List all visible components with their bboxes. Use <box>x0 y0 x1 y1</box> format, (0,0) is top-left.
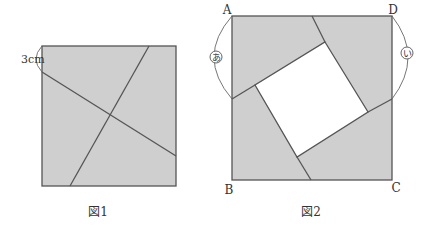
figure-2-caption: 図2 <box>301 205 321 219</box>
figure-1-caption: 図1 <box>88 205 108 219</box>
figure-1-measure-label: 3cm <box>21 53 45 66</box>
vertex-b: B <box>225 183 234 197</box>
figure-1: 3cm 図1 <box>21 46 176 219</box>
vertex-d: D <box>388 3 398 17</box>
arc-label-right: い <box>403 49 412 59</box>
arc-label-left: あ <box>212 53 221 63</box>
vertex-c: C <box>391 181 400 195</box>
figure-2: あ い A D B C 図2 <box>210 3 413 219</box>
vertex-a: A <box>222 3 232 17</box>
figure-canvas: 3cm 図1 あ い A D B C 図2 <box>0 0 424 228</box>
